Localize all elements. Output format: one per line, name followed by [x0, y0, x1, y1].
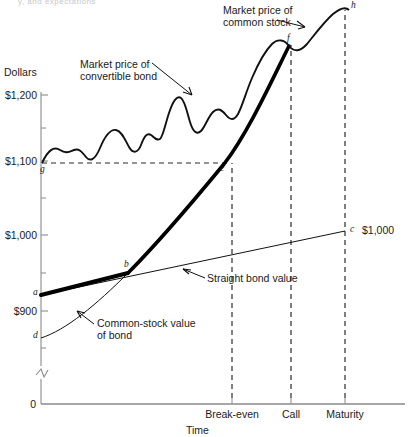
- point-label-b: b: [124, 259, 129, 270]
- x-tick-label-call: Call: [266, 408, 316, 420]
- convertible-floor-curve: [41, 273, 128, 295]
- leader-common-stock-value: [77, 311, 94, 324]
- y-tick-label-1200: $1,200: [0, 89, 37, 101]
- annotation-common-stock-value-line2: of bond: [97, 329, 196, 341]
- annotation-convertible-bond-line2: convertible bond: [80, 70, 157, 82]
- y-tick-label-1100: $1,100: [0, 155, 37, 167]
- point-label-a: a: [33, 287, 38, 298]
- convertible-bond-market-price-curve: [42, 8, 349, 163]
- x-axis-title: Time: [186, 424, 209, 436]
- annotation-common-stock: Market price of common stock: [223, 4, 292, 28]
- point-label-f: f: [287, 33, 290, 44]
- maturity-value-callout: $1,000: [362, 224, 394, 236]
- x-tick-label-maturity: Maturity: [313, 408, 377, 420]
- chart-plot-area: [0, 0, 413, 437]
- annotation-convertible-bond: Market price of convertible bond: [80, 58, 157, 82]
- annotation-common-stock-value-line1: Common-stock value: [97, 317, 196, 329]
- point-label-d: d: [33, 330, 38, 341]
- y-tick-label-1000: $1,000: [0, 229, 37, 241]
- point-label-g: g: [40, 164, 45, 175]
- common-stock-value-curve: [41, 46, 289, 338]
- origin-label: 0: [22, 398, 36, 410]
- annotation-common-stock-line1: Market price of: [223, 4, 292, 16]
- point-label-h: h: [351, 0, 356, 11]
- point-label-e: e: [220, 163, 224, 174]
- y-tick-label-900: $900: [0, 305, 37, 317]
- point-label-c: c: [350, 224, 354, 235]
- annotation-common-stock-line2: common stock: [223, 16, 292, 28]
- annotation-convertible-bond-line1: Market price of: [80, 58, 157, 70]
- y-axis: [36, 92, 48, 404]
- event-guide-lines: [232, 10, 345, 398]
- leader-straight-bond: [183, 269, 205, 278]
- x-axis: [41, 398, 405, 404]
- annotation-straight-bond-value: Straight bond value: [207, 272, 297, 284]
- annotation-common-stock-value: Common-stock value of bond: [97, 317, 196, 341]
- x-tick-label-break-even: Break-even: [197, 408, 267, 420]
- chart-figure: y, and expectations: [0, 0, 413, 437]
- y-axis-title: Dollars: [4, 66, 37, 78]
- leader-convertible-bond: [152, 63, 192, 95]
